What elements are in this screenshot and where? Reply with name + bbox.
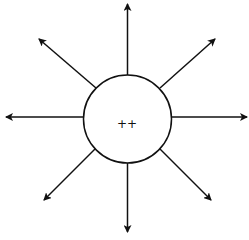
arrow-up-right-icon <box>160 39 215 88</box>
arrow-down-left-icon <box>44 149 95 200</box>
arrow-up-left-icon <box>39 39 96 88</box>
arrow-down-right-icon <box>160 149 211 200</box>
center-charge-label: ++ <box>107 117 147 131</box>
